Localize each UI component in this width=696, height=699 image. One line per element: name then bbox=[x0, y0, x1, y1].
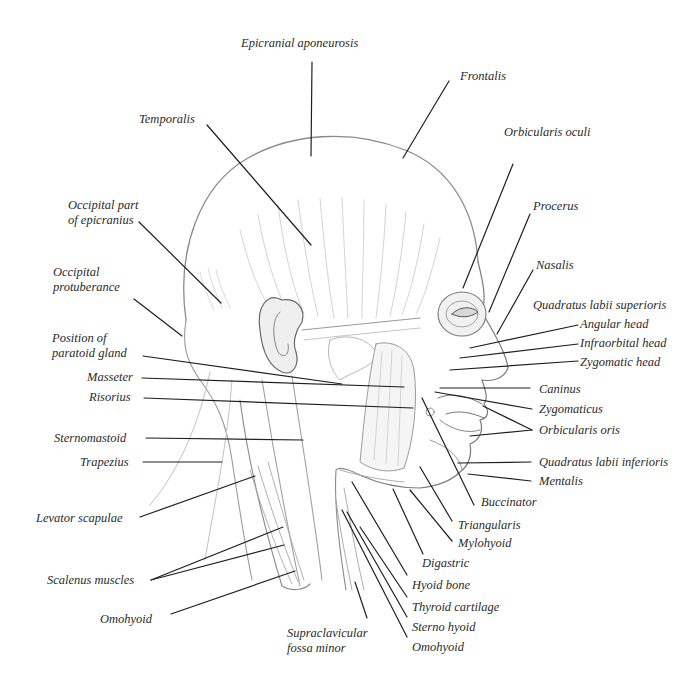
leader-line-masseter bbox=[142, 378, 404, 387]
leader-line-supraclavicular-fossa-minor bbox=[355, 582, 367, 618]
leader-line-omohyoid-right bbox=[342, 510, 407, 637]
label-scalenus-muscles: Scalenus muscles bbox=[47, 573, 134, 588]
label-mylohyoid: Mylohyoid bbox=[458, 536, 511, 551]
occipital-strokes bbox=[200, 268, 230, 310]
label-nasalis: Nasalis bbox=[536, 258, 574, 273]
label-epicranial-aponeurosis: Epicranial aponeurosis bbox=[241, 36, 358, 51]
leader-line-scalenus-muscles-b bbox=[151, 545, 284, 580]
leader-line-sterno-hyoid bbox=[347, 512, 407, 617]
label-orbicularis-oris: Orbicularis oris bbox=[539, 423, 620, 438]
leader-line-digastric bbox=[393, 489, 423, 554]
leader-line-frontalis bbox=[403, 81, 449, 158]
chin-sketch bbox=[430, 440, 462, 470]
label-omohyoid-right: Omohyoid bbox=[412, 640, 464, 655]
leader-line-buccinator bbox=[422, 398, 474, 505]
leader-line-scalenus-muscles-a bbox=[151, 527, 283, 580]
label-occipital-part-of-epicranius: Occipital part of epicranius bbox=[68, 198, 150, 228]
label-supraclavicular-fossa-minor: Supraclavicular fossa minor bbox=[287, 626, 377, 656]
throat-sketch bbox=[336, 470, 404, 590]
leader-line-orbicularis-oculi bbox=[463, 164, 513, 288]
label-orbicularis-oculi: Orbicularis oculi bbox=[504, 125, 590, 140]
label-levator-scapulae: Levator scapulae bbox=[36, 511, 122, 526]
ear bbox=[259, 298, 303, 373]
zygomatic-arch bbox=[302, 318, 420, 330]
label-procerus: Procerus bbox=[533, 199, 578, 214]
label-hyoid-bone: Hyoid bone bbox=[412, 578, 470, 593]
leader-line-orbicularis-oris-b bbox=[470, 430, 532, 436]
label-mentalis: Mentalis bbox=[539, 474, 583, 489]
neck-shadow bbox=[240, 400, 310, 590]
leader-line-quadratus-labii-inferioris bbox=[458, 462, 531, 463]
leader-line-triangularis bbox=[420, 467, 452, 521]
label-quadratus-labii-superioris: Quadratus labii superioris bbox=[533, 298, 666, 313]
leader-line-mylohyoid bbox=[410, 490, 452, 541]
leader-line-procerus bbox=[489, 214, 530, 312]
leader-line-epicranial-aponeurosis bbox=[311, 62, 312, 156]
leader-line-sternomastoid bbox=[146, 438, 303, 440]
label-infraorbital-head: Infraorbital head bbox=[580, 336, 666, 351]
label-frontalis: Frontalis bbox=[460, 69, 506, 84]
anatomy-diagram: Epicranial aponeurosis Frontalis Tempora… bbox=[0, 0, 696, 699]
label-quadratus-labii-inferioris: Quadratus labii inferioris bbox=[539, 455, 668, 470]
orbicularis-oculi-sketch bbox=[438, 292, 486, 336]
label-occipital-protuberance: Occipital protuberance bbox=[53, 265, 133, 295]
label-temporalis: Temporalis bbox=[139, 112, 195, 127]
label-risorius: Risorius bbox=[89, 390, 131, 405]
skull-outline bbox=[184, 136, 478, 320]
label-triangularis: Triangularis bbox=[458, 518, 521, 533]
mouth-sketch bbox=[426, 395, 484, 431]
leader-line-zygomatic-head bbox=[450, 361, 578, 370]
label-buccinator: Buccinator bbox=[481, 495, 537, 510]
leader-line-angular-head bbox=[470, 325, 578, 348]
label-zygomatic-head: Zygomatic head bbox=[580, 355, 660, 370]
label-omohyoid-left: Omohyoid bbox=[100, 612, 152, 627]
leader-line-omohyoid-left bbox=[171, 571, 295, 614]
label-angular-head: Angular head bbox=[580, 317, 648, 332]
label-trapezius: Trapezius bbox=[80, 455, 129, 470]
leader-line-position-of-paratoid-gland bbox=[143, 356, 342, 384]
leader-line-temporalis bbox=[207, 125, 311, 245]
label-caninus: Caninus bbox=[539, 382, 581, 397]
label-thyroid-cartilage: Thyroid cartilage bbox=[412, 600, 499, 615]
sternomastoid-band bbox=[262, 376, 322, 586]
label-digastric: Digastric bbox=[422, 556, 469, 571]
label-masseter: Masseter bbox=[87, 370, 133, 385]
nape-outline bbox=[185, 320, 252, 580]
head-sketch bbox=[150, 136, 508, 590]
leader-line-orbicularis-oris-a bbox=[483, 406, 532, 430]
label-sternomastoid: Sternomastoid bbox=[54, 431, 126, 446]
label-zygomaticus: Zygomaticus bbox=[539, 402, 603, 417]
label-position-of-paratoid-gland: Position of paratoid gland bbox=[52, 331, 152, 361]
label-sterno-hyoid: Sterno hyoid bbox=[412, 620, 476, 635]
leader-line-mentalis bbox=[468, 474, 531, 481]
leader-line-hyoid-bone bbox=[352, 482, 407, 575]
leader-line-occipital-part-of-epicranius bbox=[139, 222, 221, 303]
